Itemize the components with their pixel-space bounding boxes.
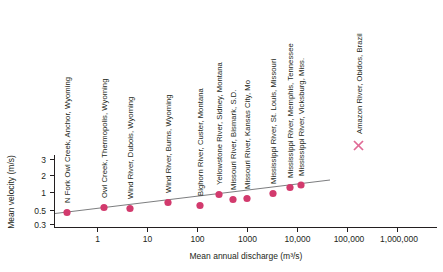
x-tick-label-10: 10 (143, 234, 153, 244)
point-label-7: Missouri River, Kansas City, Mo (243, 80, 252, 189)
point-label-6: Missouri River, Bismark, S.D. (229, 89, 238, 190)
x-tick-label-1000: 1000 (238, 234, 257, 244)
data-point[interactable] (229, 196, 236, 203)
data-point[interactable] (100, 204, 107, 211)
data-point[interactable] (126, 205, 133, 212)
x-tick-label-1: 1 (95, 234, 100, 244)
y-axis-title: Mean velocity (m/s) (6, 155, 16, 229)
point-label-3: Wind River, Burns, Wyoming (164, 94, 173, 193)
point-label-4: Bighorn River, Custer, Montana (196, 87, 205, 196)
y-tick-label-0-5: 0.5 (34, 206, 46, 216)
y-axis-ticks (50, 160, 55, 225)
data-point[interactable] (63, 209, 70, 216)
chart-figure: 3 2 1 0.5 0.3 1 10 100 1000 10,000 100,0… (0, 0, 443, 272)
point-label-5: Yellowstone River, Sidney, Montana (215, 61, 224, 185)
data-point[interactable] (196, 202, 203, 209)
chart-canvas: 3 2 1 0.5 0.3 1 10 100 1000 10,000 100,0… (0, 0, 443, 272)
point-labels: N Fork Owl Creek, Anchor, Wyoming Owl Cr… (63, 33, 364, 203)
point-label-2: Wind River, Dubois, Wyoming (126, 97, 135, 199)
point-label-9: Mississippi River, Memphis, Tennessee (286, 43, 295, 178)
y-tick-label-2: 2 (41, 171, 46, 181)
amazon-x-marker[interactable] (354, 141, 363, 150)
point-label-amazon: Amazon River, Obidos, Brazil (355, 33, 364, 134)
point-label-1: Owl Creek, Thermopolis, Wyoming (100, 79, 109, 198)
y-tick-label-3: 3 (41, 155, 46, 165)
x-tick-label-100: 100 (190, 234, 204, 244)
x-tick-label-10000: 10,000 (285, 234, 311, 244)
data-point[interactable] (164, 199, 171, 206)
data-point[interactable] (297, 181, 304, 188)
x-tick-label-100000: 100,000 (334, 234, 365, 244)
x-axis-title: Mean annual discharge (m³/s) (190, 251, 303, 261)
data-point[interactable] (286, 184, 293, 191)
x-tick-label-1000000: 1,000,000 (380, 234, 418, 244)
data-point[interactable] (243, 195, 250, 202)
x-axis-ticks (98, 228, 398, 233)
data-point[interactable] (215, 191, 222, 198)
point-label-0: N Fork Owl Creek, Anchor, Wyoming (63, 77, 72, 203)
data-point[interactable] (269, 190, 276, 197)
y-tick-label-0-3: 0.3 (34, 220, 46, 230)
point-label-10: Mississippi River, Vicksburg, Miss. (297, 58, 306, 176)
point-label-8: Mississippi River, St. Louis, Missouri (269, 59, 278, 184)
y-tick-label-1: 1 (41, 188, 46, 198)
